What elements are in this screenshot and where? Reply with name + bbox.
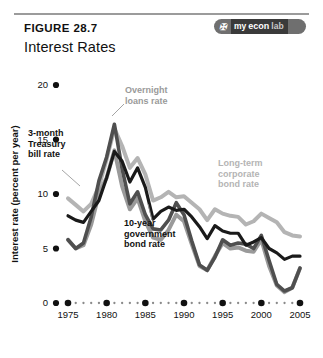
myeconlab-logo[interactable]: ✠ my econ lab xyxy=(214,19,306,34)
annotation-overnight-loans-rate: Overnightloans rate xyxy=(112,85,168,116)
x-minor-tick xyxy=(90,302,92,304)
x-tick-label: 1975 xyxy=(57,309,78,320)
y-tick-label: 5 xyxy=(43,243,48,254)
x-tick-label: 1985 xyxy=(135,309,156,320)
annotation-line: 3-month xyxy=(28,128,64,138)
x-minor-tick xyxy=(82,302,84,304)
logo-text-econ: econ xyxy=(247,19,270,34)
annotation-long-term-corporate-bond-rate: Long-termcorporatebond rate xyxy=(218,158,263,189)
y-tick-label: 10 xyxy=(37,188,48,199)
x-minor-tick xyxy=(191,302,193,304)
x-minor-tick xyxy=(252,302,254,304)
x-minor-tick xyxy=(237,302,239,304)
y-tick-marker xyxy=(53,245,59,251)
x-tick-label: 1995 xyxy=(212,309,233,320)
x-axis-title: Year xyxy=(60,325,80,326)
annotation-line: Long-term xyxy=(218,158,263,168)
x-minor-tick xyxy=(283,302,285,304)
x-tick-label: 2000 xyxy=(251,309,272,320)
x-tick-marker xyxy=(297,300,304,307)
x-tick-marker xyxy=(181,300,188,307)
chart-plot-area: 051015201975198019851990199520002005Year… xyxy=(0,58,323,326)
x-minor-tick xyxy=(245,302,247,304)
figure-number: FIGURE 28.7 xyxy=(24,22,97,34)
annotation-leader-line xyxy=(62,170,80,186)
annotation-leader-line xyxy=(112,104,124,116)
annotation-10-year-government-bond-rate: 10-yeargovernmentbond rate xyxy=(124,204,176,249)
y-tick-marker xyxy=(53,191,59,197)
x-minor-tick xyxy=(229,302,231,304)
x-minor-tick xyxy=(198,302,200,304)
x-minor-tick xyxy=(98,302,100,304)
x-minor-tick xyxy=(75,302,77,304)
logo-text-lab: lab xyxy=(270,19,287,34)
x-minor-tick xyxy=(121,302,123,304)
x-axis: 1975198019851990199520002005Year xyxy=(57,300,310,326)
annotation-line: 10-year xyxy=(124,218,156,228)
annotation-3-month-treasury-bill-rate: 3-monthTreasurybill rate xyxy=(28,128,80,186)
annotation-line: bill rate xyxy=(28,149,60,159)
x-minor-tick xyxy=(214,302,216,304)
x-minor-tick xyxy=(175,302,177,304)
x-tick-marker xyxy=(103,300,110,307)
x-tick-marker xyxy=(258,300,265,307)
x-minor-tick xyxy=(152,302,154,304)
svg-text:Interest rate (percent per yea: Interest rate (percent per year) xyxy=(9,125,20,262)
y-tick-label: 20 xyxy=(37,79,48,90)
annotation-line: loans rate xyxy=(125,96,168,106)
annotation-line: bond rate xyxy=(218,179,259,189)
myeconlab-mark-icon: ✠ xyxy=(214,19,231,34)
x-minor-tick xyxy=(276,302,278,304)
figure-card: FIGURE 28.7 Interest Rates ✠ my econ lab… xyxy=(0,0,323,358)
x-minor-tick xyxy=(167,302,169,304)
x-minor-tick xyxy=(129,302,131,304)
x-minor-tick xyxy=(291,302,293,304)
figure-title: Interest Rates xyxy=(24,39,116,55)
logo-text-my: my xyxy=(231,19,247,34)
x-minor-tick xyxy=(160,302,162,304)
x-tick-marker xyxy=(65,300,72,307)
series-line xyxy=(68,124,300,291)
x-tick-marker xyxy=(219,300,226,307)
y-axis: 05101520 xyxy=(37,79,59,308)
x-minor-tick xyxy=(136,302,138,304)
x-tick-label: 1990 xyxy=(173,309,194,320)
x-minor-tick xyxy=(268,302,270,304)
annotation-line: government xyxy=(124,229,176,239)
interest-rates-line-chart: 051015201975198019851990199520002005Year… xyxy=(0,58,323,326)
y-tick-label: 0 xyxy=(43,297,48,308)
x-tick-marker xyxy=(142,300,149,307)
annotation-line: Treasury xyxy=(28,139,66,149)
annotation-line: corporate xyxy=(218,169,260,179)
header-divider xyxy=(14,13,309,15)
y-tick-marker xyxy=(53,82,59,88)
x-tick-label: 1980 xyxy=(96,309,117,320)
x-tick-label: 2005 xyxy=(289,309,310,320)
y-tick-marker xyxy=(53,300,59,306)
annotation-line: bond rate xyxy=(124,239,165,249)
x-minor-tick xyxy=(206,302,208,304)
x-minor-tick xyxy=(113,302,115,304)
y-axis-title: Interest rate (percent per year) xyxy=(9,125,20,262)
annotation-line: Overnight xyxy=(125,85,168,95)
